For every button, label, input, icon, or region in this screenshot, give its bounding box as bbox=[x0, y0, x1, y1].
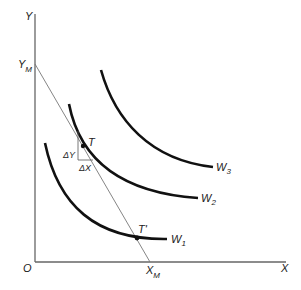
curve-w3 bbox=[101, 70, 213, 167]
y-intercept-label: YM bbox=[18, 58, 32, 74]
point-t-prime bbox=[135, 236, 140, 241]
delta-x-label: ΔX bbox=[78, 163, 92, 173]
curve-w3-label: W3 bbox=[216, 161, 231, 176]
point-t bbox=[81, 144, 85, 148]
origin-label: O bbox=[23, 262, 32, 274]
x-intercept-label: XM bbox=[145, 264, 160, 280]
delta-y-label: ΔY bbox=[62, 150, 76, 160]
y-axis-label: Y bbox=[25, 10, 33, 22]
curve-w1-label: W1 bbox=[171, 233, 186, 248]
x-axis-label: X bbox=[280, 262, 289, 274]
curve-w2-label: W2 bbox=[201, 192, 216, 207]
point-t-prime-label: T' bbox=[138, 223, 148, 235]
budget-line bbox=[35, 64, 150, 262]
point-t-label: T bbox=[88, 136, 96, 148]
curve-w2 bbox=[69, 104, 198, 198]
diagram-canvas: Y X O YM XM W1 W2 W3 T T' ΔY ΔX bbox=[0, 0, 301, 290]
